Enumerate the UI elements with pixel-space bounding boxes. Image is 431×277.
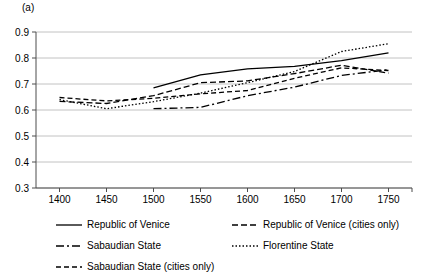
y-tick-label: 0.3 bbox=[15, 183, 29, 194]
legend-label: Republic of Venice bbox=[87, 219, 170, 230]
y-tick-label: 0.8 bbox=[15, 53, 29, 64]
y-tick-label: 0.9 bbox=[15, 27, 29, 38]
line-chart: 0.30.40.50.60.70.80.9 140014501500155016… bbox=[0, 0, 431, 277]
x-tick-label: 1600 bbox=[236, 194, 259, 205]
y-tick-label: 0.7 bbox=[15, 79, 29, 90]
series-lines-group bbox=[60, 44, 389, 109]
x-tick-label: 1450 bbox=[95, 194, 118, 205]
legend-label: Florentine State bbox=[263, 240, 334, 251]
gridlines-group bbox=[36, 32, 412, 188]
legend-label: Republic of Venice (cities only) bbox=[263, 219, 399, 230]
series-line bbox=[60, 44, 389, 109]
figure-panel-a: (a) 0.30.40.50.60.70.80.9 14001450150015… bbox=[0, 0, 431, 277]
legend-label: Sabaudian State bbox=[87, 240, 161, 251]
chart-legend: Republic of VeniceRepublic of Venice (ci… bbox=[56, 219, 399, 272]
y-tick-label: 0.5 bbox=[15, 131, 29, 142]
series-line bbox=[154, 70, 389, 109]
x-tick-label: 1500 bbox=[142, 194, 165, 205]
y-tick-label: 0.4 bbox=[15, 157, 29, 168]
x-tick-label: 1400 bbox=[48, 194, 71, 205]
x-tick-label: 1550 bbox=[189, 194, 212, 205]
legend-label: Sabaudian State (cities only) bbox=[87, 261, 214, 272]
x-tick-label: 1650 bbox=[283, 194, 306, 205]
x-tick-labels-group: 14001450150015501600165017001750 bbox=[48, 188, 412, 205]
y-tick-labels-group: 0.30.40.50.60.70.80.9 bbox=[15, 27, 36, 194]
x-tick-label: 1700 bbox=[330, 194, 353, 205]
x-tick-label: 1750 bbox=[377, 194, 400, 205]
y-tick-label: 0.6 bbox=[15, 105, 29, 116]
